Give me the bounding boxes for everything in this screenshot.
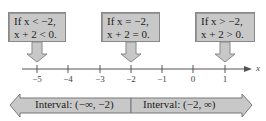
tick-label: −3	[95, 74, 105, 84]
axis-arrow-icon	[244, 66, 252, 72]
callout-x-equals-neg2: If x = −2, x + 2 = 0.	[101, 12, 160, 42]
callout-line2: x + 2 < 0.	[14, 28, 60, 41]
arrow-left-icon	[27, 42, 47, 62]
callout-line1: If x < −2,	[14, 15, 60, 28]
callout-arrows	[27, 42, 235, 62]
callout-line2: x + 2 = 0.	[107, 28, 154, 41]
tick-label: −4	[63, 74, 73, 84]
callout-x-greater-than-neg2: If x > −2, x + 2 > 0.	[195, 12, 255, 42]
callout-line1: If x > −2,	[201, 15, 249, 28]
tick-label: −5	[32, 74, 42, 84]
interval-left-label: Interval: (−∞, −2)	[35, 98, 114, 110]
arrow-right-icon	[215, 42, 235, 62]
callout-line1: If x = −2,	[107, 15, 154, 28]
axis-variable: x	[256, 63, 260, 73]
tick-label: −1	[157, 74, 167, 84]
tick-label: 1	[223, 74, 228, 84]
callout-line2: x + 2 > 0.	[201, 28, 249, 41]
tick-label: −2	[126, 74, 136, 84]
tick-label: 0	[191, 74, 196, 84]
callout-x-less-than-neg2: If x < −2, x + 2 < 0.	[8, 12, 66, 42]
number-line	[22, 65, 250, 73]
arrow-middle-icon	[121, 42, 141, 62]
interval-right-label: Interval: (−2, ∞)	[143, 98, 215, 110]
